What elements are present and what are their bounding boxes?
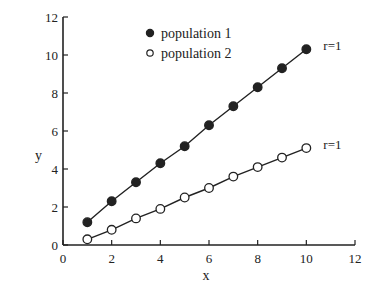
data-point [253, 163, 262, 172]
data-point [180, 193, 189, 202]
data-point [205, 121, 214, 130]
x-tick-label: 2 [108, 251, 115, 266]
legend-item: population 2 [147, 46, 232, 61]
data-point [107, 197, 116, 206]
data-point [229, 172, 238, 181]
series-annotation: r=1 [323, 137, 341, 152]
legend-label: population 1 [161, 26, 231, 41]
x-tick-label: 10 [300, 251, 313, 266]
data-point [278, 153, 287, 162]
data-series: r=1r=1 [83, 38, 341, 243]
legend-item: population 1 [146, 26, 231, 41]
series-line [87, 49, 306, 222]
y-tick-label: 12 [45, 10, 58, 25]
data-point [253, 83, 262, 92]
legend-label: population 2 [161, 46, 231, 61]
y-tick-label: 0 [52, 238, 59, 253]
legend: population 1population 2 [146, 26, 231, 61]
x-tick-label: 0 [60, 251, 67, 266]
series-1: r=1 [83, 38, 341, 226]
y-tick-label: 2 [52, 200, 59, 215]
data-point [83, 218, 92, 227]
data-point [278, 64, 287, 73]
scatter-chart: 024681012024681012 r=1r=1 population 1po… [0, 0, 375, 291]
data-point [107, 226, 116, 235]
data-point [229, 102, 238, 111]
x-axis-label: x [203, 268, 210, 283]
data-point [132, 178, 141, 187]
data-point [156, 159, 165, 168]
y-axis-label: y [35, 148, 42, 163]
filled-circle-icon [146, 29, 153, 36]
x-tick-label: 4 [157, 251, 164, 266]
x-tick-label: 12 [349, 251, 362, 266]
data-point [302, 45, 311, 54]
series-line [87, 148, 306, 239]
x-tick-label: 6 [206, 251, 213, 266]
y-tick-label: 4 [52, 162, 59, 177]
series-2: r=1 [83, 137, 341, 244]
y-tick-label: 8 [52, 86, 59, 101]
data-point [180, 142, 189, 151]
data-point [156, 205, 165, 214]
data-point [132, 214, 141, 223]
y-tick-label: 10 [45, 48, 58, 63]
open-circle-icon [147, 50, 153, 56]
y-tick-label: 6 [52, 124, 59, 139]
data-point [302, 144, 311, 153]
x-tick-label: 8 [254, 251, 261, 266]
series-annotation: r=1 [323, 38, 341, 53]
data-point [83, 235, 92, 244]
data-point [205, 184, 214, 193]
